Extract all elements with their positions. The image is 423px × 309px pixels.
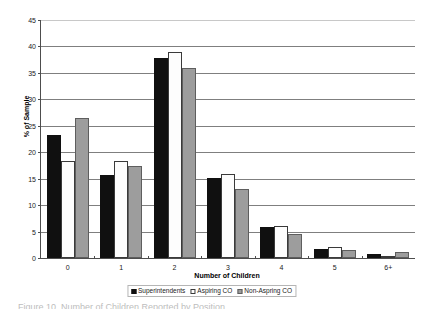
x-axis-title: Number of Children [40, 272, 414, 280]
bar [182, 68, 196, 258]
bar [47, 135, 61, 258]
bar [274, 226, 288, 258]
figure-caption: Figure 10. Number of Children Reported b… [18, 302, 408, 309]
legend-item: Aspiring CO [190, 287, 232, 295]
y-axis-tick-label: 5 [32, 228, 36, 235]
bar-group: 1 [94, 20, 147, 258]
bar-group: 0 [41, 20, 94, 258]
y-axis-tick-label: 45 [28, 17, 36, 24]
bar [168, 52, 182, 258]
bars-layer: 0123456+ [41, 20, 415, 258]
bar-group: 2 [148, 20, 201, 258]
legend-swatch-icon [131, 289, 136, 294]
bar [235, 189, 249, 258]
bar-chart-figure: 051015202530354045 0123456+ % of Sample … [0, 0, 423, 309]
legend-item: Superintendents [131, 287, 185, 295]
bar [221, 174, 235, 258]
y-axis-tick-mark [38, 258, 41, 259]
x-axis-tick-label: 1 [119, 264, 123, 272]
x-axis-tick-label: 3 [226, 264, 230, 272]
bar [395, 252, 409, 258]
plot-area: 051015202530354045 0123456+ [40, 20, 415, 259]
y-axis-tick-label: 40 [28, 43, 36, 50]
bar [260, 227, 274, 258]
legend-item-label: Aspiring CO [197, 287, 232, 295]
bar [61, 161, 75, 258]
bar [367, 254, 381, 258]
x-axis-tick-label: 2 [173, 264, 177, 272]
bar-group: 5 [308, 20, 361, 258]
bar [381, 256, 395, 258]
bar [342, 250, 356, 258]
bar [154, 58, 168, 258]
x-axis-tick-label: 4 [279, 264, 283, 272]
legend-swatch-icon [237, 289, 242, 294]
bar-group: 6+ [362, 20, 415, 258]
legend-item-label: Non-Aspring CO [244, 287, 292, 295]
bar [128, 166, 142, 258]
bar [114, 161, 128, 258]
y-axis-tick-label: 0 [32, 255, 36, 262]
legend-item-label: Superintendents [138, 287, 185, 295]
chart-legend: SuperintendentsAspiring CONon-Aspring CO [127, 285, 296, 297]
bar [75, 118, 89, 258]
legend-item: Non-Aspring CO [237, 287, 292, 295]
x-axis-tick-label: 0 [66, 264, 70, 272]
x-axis-tick-label: 6+ [384, 264, 392, 272]
y-axis-title: % of Sample [23, 72, 31, 207]
bar-group: 4 [255, 20, 308, 258]
legend-swatch-icon [190, 289, 195, 294]
x-axis-tick-label: 5 [333, 264, 337, 272]
bar [288, 234, 302, 258]
bar [100, 175, 114, 258]
bar [328, 247, 342, 258]
bar [207, 178, 221, 258]
bar [314, 249, 328, 258]
bar-group: 3 [201, 20, 254, 258]
